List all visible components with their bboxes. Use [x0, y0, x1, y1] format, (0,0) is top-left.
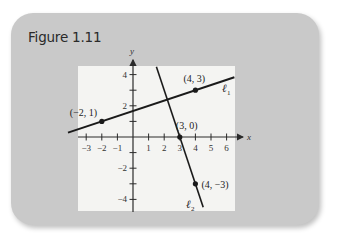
x-tick-label: 3 [178, 143, 183, 153]
point-label: (3, 0) [176, 120, 198, 132]
line-chart: xy−3−2−1123456−4−224(−2, 1)(4, 3)(3, 0)(… [0, 0, 341, 242]
data-point [99, 119, 104, 124]
data-point [193, 88, 198, 93]
y-tick-label: 4 [123, 70, 128, 80]
point-label: (4, −3) [201, 179, 228, 191]
y-tick-label: 2 [123, 101, 128, 111]
x-tick-label: 6 [224, 143, 229, 153]
x-tick-label: 4 [193, 143, 198, 153]
x-tick-label: −2 [97, 143, 107, 153]
svg-text:1: 1 [227, 89, 231, 97]
x-tick-label: −3 [81, 143, 91, 153]
svg-text:2: 2 [191, 205, 195, 213]
point-label: (4, 3) [183, 73, 205, 85]
x-tick-label: −1 [113, 143, 123, 153]
y-axis-label: y [129, 46, 134, 56]
data-point [177, 134, 182, 139]
data-point [193, 181, 198, 186]
y-tick-label: −2 [117, 163, 127, 173]
y-tick-label: −4 [117, 194, 127, 204]
x-tick-label: 1 [146, 143, 151, 153]
point-label: (−2, 1) [70, 107, 97, 119]
x-tick-label: 2 [162, 143, 167, 153]
x-axis-label: x [246, 132, 251, 142]
x-tick-label: 5 [209, 143, 214, 153]
